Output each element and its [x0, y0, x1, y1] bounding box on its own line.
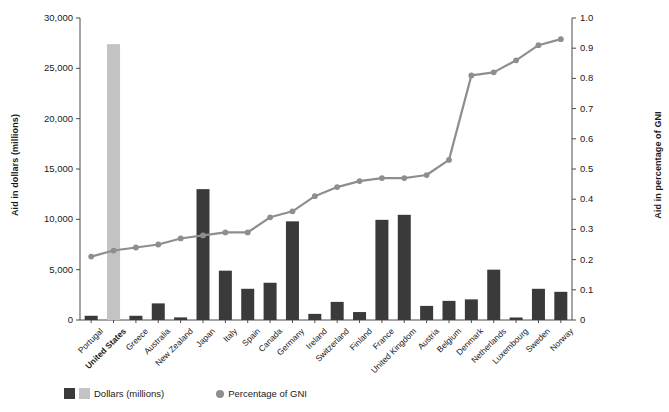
chart-legend: Dollars (millions) Percentage of GNI	[64, 388, 307, 399]
bar-france	[375, 220, 388, 320]
y-axis-left-tick-label: 0	[13, 314, 73, 325]
y-axis-right-tick-label: 0.1	[580, 284, 593, 295]
bar-luxembourg	[510, 317, 523, 320]
y-axis-right-tick-label: 0	[580, 314, 585, 325]
line-point-finland	[357, 178, 363, 184]
line-point-canada	[267, 214, 273, 220]
y-axis-right-title: Aid in percentage of GNI	[653, 75, 663, 255]
legend-swatch-light	[79, 388, 90, 399]
line-point-portugal	[88, 254, 94, 260]
line-point-sweden	[536, 42, 542, 48]
line-point-belgium	[446, 157, 452, 163]
line-point-greece	[133, 245, 139, 251]
bar-greece	[129, 316, 142, 320]
y-axis-right-tick-label: 0.6	[580, 133, 593, 144]
bar-norway	[554, 292, 567, 320]
chart-container: Aid in dollars (millions) Aid in percent…	[0, 0, 669, 412]
y-axis-left-tick-label: 20,000	[13, 113, 73, 124]
legend-label-dollars: Dollars (millions)	[94, 388, 164, 399]
bar-ireland	[308, 314, 321, 320]
line-point-ireland	[312, 193, 318, 199]
y-axis-left-tick-label: 15,000	[13, 163, 73, 174]
bar-austria	[420, 306, 433, 320]
legend-item-dollars: Dollars (millions)	[64, 388, 164, 399]
line-point-norway	[558, 36, 564, 42]
bar-new-zealand	[174, 317, 187, 320]
bar-portugal	[85, 316, 98, 320]
bar-sweden	[532, 289, 545, 320]
bar-united-kingdom	[398, 215, 411, 320]
line-point-switzerland	[334, 184, 340, 190]
legend-item-gni: Percentage of GNI	[216, 388, 307, 399]
line-point-germany	[290, 208, 296, 214]
line-percentage-of-gni	[91, 39, 561, 257]
line-point-japan	[200, 233, 206, 239]
legend-label-gni: Percentage of GNI	[228, 388, 307, 399]
bar-belgium	[443, 301, 456, 320]
y-axis-left-tick-label: 10,000	[13, 213, 73, 224]
line-point-united-kingdom	[401, 175, 407, 181]
y-axis-left-tick-label: 25,000	[13, 62, 73, 73]
bar-japan	[197, 189, 210, 320]
y-axis-right-tick-label: 0.7	[580, 103, 593, 114]
legend-dot-gni	[216, 390, 224, 398]
bar-united-states	[107, 44, 120, 320]
bar-spain	[241, 289, 254, 320]
bar-australia	[152, 303, 165, 320]
line-point-austria	[424, 172, 430, 178]
line-point-united-states	[111, 248, 117, 254]
y-axis-right-tick-label: 0.3	[580, 223, 593, 234]
bar-switzerland	[331, 302, 344, 320]
line-point-luxembourg	[513, 57, 519, 63]
bar-germany	[286, 221, 299, 320]
line-point-netherlands	[491, 69, 497, 75]
bar-finland	[353, 312, 366, 320]
y-axis-left-tick-label: 30,000	[13, 12, 73, 23]
legend-swatch-dark	[64, 388, 75, 399]
y-axis-left-tick-label: 5,000	[13, 264, 73, 275]
line-point-spain	[245, 230, 251, 236]
line-point-denmark	[468, 72, 474, 78]
line-point-france	[379, 175, 385, 181]
line-point-italy	[222, 230, 228, 236]
y-axis-right-tick-label: 0.9	[580, 42, 593, 53]
bar-canada	[264, 283, 277, 320]
y-axis-right-tick-label: 1.0	[580, 12, 593, 23]
y-axis-right-tick-label: 0.4	[580, 193, 593, 204]
bar-denmark	[465, 299, 478, 320]
bar-italy	[219, 271, 232, 320]
y-axis-right-tick-label: 0.8	[580, 72, 593, 83]
line-point-new-zealand	[178, 236, 184, 242]
y-axis-right-tick-label: 0.2	[580, 254, 593, 265]
y-axis-right-tick-label: 0.5	[580, 163, 593, 174]
line-point-australia	[155, 242, 161, 248]
bar-netherlands	[487, 270, 500, 320]
